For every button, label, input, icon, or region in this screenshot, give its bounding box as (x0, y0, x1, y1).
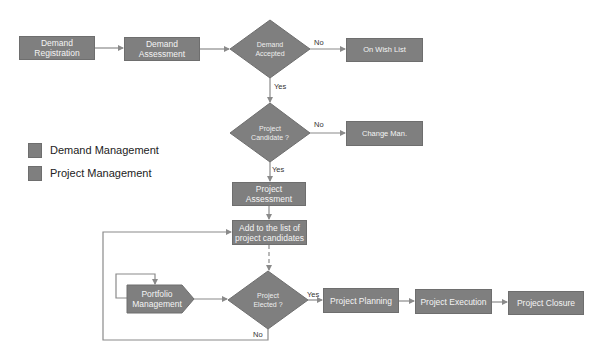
node-project-closure: Project Closure (508, 291, 584, 315)
node-on-wish-list: On Wish List (346, 38, 423, 62)
label-demand-accepted: Demand Accepted (248, 38, 292, 60)
node-demand-registration: Demand Registration (19, 36, 95, 60)
edge-label-accepted-yes: Yes (274, 82, 286, 91)
node-project-execution: Project Execution (415, 289, 492, 314)
process-flow-diagram: Demand Registration Demand Assessment On… (0, 0, 604, 361)
edge-label-candidate-yes: Yes (272, 165, 284, 174)
node-change-man: Change Man. (346, 121, 423, 146)
edge-label-accepted-no: No (314, 38, 324, 47)
legend-label-project: Project Management (50, 167, 152, 179)
edge-label-elected-no: No (253, 330, 263, 339)
legend-swatch-demand (28, 143, 42, 158)
legend-swatch-project (28, 166, 42, 181)
label-portfolio-management: Portfolio Management (127, 285, 187, 313)
label-project-elected: Project Elected ? (246, 289, 290, 311)
node-project-assessment: Project Assessment (232, 182, 306, 206)
node-add-to-list: Add to the list of project candidates (232, 220, 307, 245)
node-project-planning: Project Planning (323, 288, 399, 313)
node-demand-assessment: Demand Assessment (124, 37, 200, 61)
legend-label-demand: Demand Management (50, 144, 159, 156)
label-project-candidate: Project Candidate ? (248, 118, 292, 148)
edge-label-candidate-no: No (314, 120, 324, 129)
edge-label-elected-yes: Yes (307, 290, 319, 299)
